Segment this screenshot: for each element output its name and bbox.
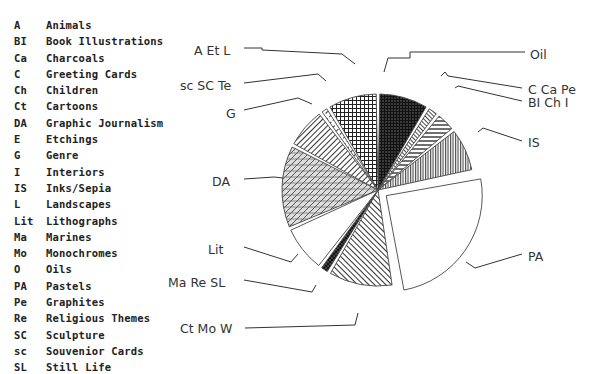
leader-line: [244, 74, 326, 83]
slice-label: Ma Re SL: [168, 275, 225, 290]
slice-label: sc SC Te: [180, 78, 232, 93]
leader-line: [384, 52, 525, 72]
slice-label: BI Ch I: [528, 95, 569, 110]
pie-slice: [386, 179, 482, 290]
leader-line: [244, 280, 316, 292]
leader-line: [244, 98, 312, 110]
slice-label: PA: [528, 249, 544, 264]
slice-label: Oil: [530, 47, 547, 62]
pie-slices: [282, 94, 482, 290]
pie-chart: OilC Ca PeBI Ch IISPACt Mo WMa Re SLLitD…: [0, 0, 594, 374]
slice-label: A Et L: [194, 43, 230, 58]
leader-line: [455, 86, 522, 101]
leader-line: [441, 72, 522, 88]
leader-line: [245, 313, 358, 328]
leader-line: [478, 128, 522, 141]
slice-label: Ct Mo W: [180, 321, 232, 336]
leader-line: [244, 247, 298, 262]
leader-line: [466, 254, 522, 268]
slice-label: DA: [212, 174, 230, 189]
slice-label: G: [226, 106, 236, 121]
slice-label: IS: [528, 135, 540, 150]
leader-line: [244, 48, 355, 64]
slice-label: Lit: [208, 242, 223, 257]
leader-line: [244, 177, 283, 179]
